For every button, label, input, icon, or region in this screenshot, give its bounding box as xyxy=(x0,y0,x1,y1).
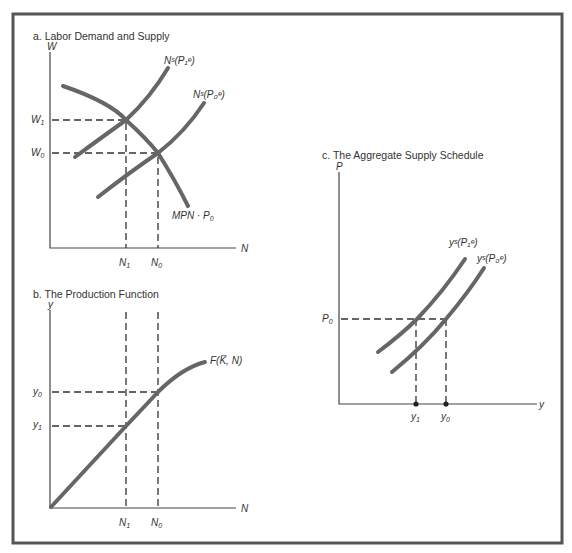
marker-y1 xyxy=(413,401,418,406)
figure-frame xyxy=(13,14,562,543)
tick-label-y0: y0 xyxy=(32,386,42,398)
label-as-p0: yˢ(P₀ᵉ) xyxy=(476,253,507,264)
panel-labor-market: a. Labor Demand and Supply W N W1 W0 N1 … xyxy=(31,30,249,269)
tick-label-p0: P0 xyxy=(322,313,333,325)
label-labor-supply-p1: Nˢ(P₁ᵉ) xyxy=(164,55,195,66)
tick-label-n0: N0 xyxy=(151,257,162,269)
tick-label-b-n1: N1 xyxy=(119,517,130,529)
panel-aggregate-supply: c. The Aggregate Supply Schedule P y P0 … xyxy=(322,149,545,423)
panel-c-axes xyxy=(339,172,537,404)
panel-b-x-axis-label: N xyxy=(241,503,249,514)
panel-a-y-axis-label: W xyxy=(47,41,58,52)
tick-label-n1: N1 xyxy=(119,257,130,269)
marker-y0 xyxy=(443,401,448,406)
aggregate-supply-curve-p0 xyxy=(392,268,484,372)
label-as-p1: yˢ(P₁ᵉ) xyxy=(448,237,478,248)
panel-c-y-axis-label: P xyxy=(336,161,343,172)
panel-b-y-axis-label: y xyxy=(47,299,54,310)
labor-supply-curve-p0 xyxy=(98,103,204,197)
tick-label-c-y0: y0 xyxy=(440,411,450,423)
label-production-function: F(K̅, N) xyxy=(210,355,242,366)
labor-supply-curve-p1 xyxy=(75,68,168,157)
panel-a-guide-w0-n0 xyxy=(52,153,158,248)
tick-label-w0: W0 xyxy=(31,147,44,159)
label-labor-supply-p0: Nˢ(P₀ᵉ) xyxy=(193,89,225,100)
panel-c-x-axis-label: y xyxy=(538,399,545,410)
panel-production-function: b. The Production Function y N y0 y1 N1 … xyxy=(32,288,249,529)
tick-label-b-n0: N0 xyxy=(151,517,162,529)
production-function-curve xyxy=(51,362,205,507)
tick-label-c-y1: y1 xyxy=(410,411,420,423)
tick-label-w1: W1 xyxy=(31,114,44,126)
figure-canvas: a. Labor Demand and Supply W N W1 W0 N1 … xyxy=(0,0,572,553)
panel-a-x-axis-label: N xyxy=(241,243,249,254)
tick-label-y1: y1 xyxy=(32,419,42,431)
panel-c-title: c. The Aggregate Supply Schedule xyxy=(322,149,484,161)
label-labor-demand: MPN · P0 xyxy=(172,210,214,222)
aggregate-supply-curve-p1 xyxy=(378,259,465,352)
